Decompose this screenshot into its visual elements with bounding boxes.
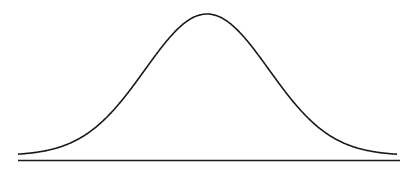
bell-curve — [18, 14, 397, 154]
bell-curve-diagram — [0, 0, 420, 169]
